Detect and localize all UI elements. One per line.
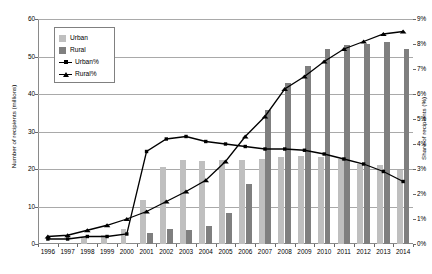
x-axis-tick-label: 2001 [139,249,153,255]
y-axis-right-tick-label: 4% [417,141,426,147]
y-axis-left-tick-label: 40 [28,91,35,97]
x-axis-tick-label: 2002 [159,249,173,255]
x-axis-tick-label: 2013 [376,249,390,255]
x-axis-tick-mark [413,244,414,247]
x-axis-tick-mark [117,244,118,247]
y-axis-right-tick-mark [413,94,416,95]
y-axis-right-tick-mark [413,69,416,70]
urban-swatch-icon [59,35,66,42]
y-axis-left-tick-label: 60 [28,16,35,22]
marker-urban-pct-2012 [362,162,365,165]
rural-line-marker-icon [59,71,72,78]
x-axis-tick-label: 2007 [258,249,272,255]
legend-label-rural: Rural [70,47,86,54]
chart-container: Number of recipients (millions) Share of… [0,0,432,274]
x-axis-tick-label: 2005 [218,249,232,255]
marker-urban-pct-2009 [303,149,306,152]
marker-urban-pct-2001 [145,150,148,153]
x-axis-tick-label: 1998 [80,249,94,255]
marker-urban-pct-2003 [184,135,187,138]
x-axis-tick-label: 2006 [238,249,252,255]
x-axis-tick-label: 1997 [60,249,74,255]
x-axis-tick-label: 2011 [337,249,351,255]
x-axis-tick-mark [97,244,98,247]
legend-label-urban-pct: Urban% [75,59,99,66]
x-axis-tick-label: 2014 [396,249,410,255]
x-axis-tick-mark [38,244,39,247]
y-axis-left-tick-label: 50 [28,53,35,59]
y-axis-right-tick-mark [413,219,416,220]
y-axis-right-tick-label: 8% [417,41,426,47]
marker-urban-pct-2000 [125,232,128,235]
x-axis-tick-label: 2008 [278,249,292,255]
marker-urban-pct-1999 [105,235,108,238]
marker-urban-pct-1997 [66,237,69,240]
y-axis-right-tick-mark [413,194,416,195]
marker-urban-pct-2007 [263,147,266,150]
chart-legend: Urban Rural Urban% Rural% [54,27,115,83]
y-axis-left-tick-label: 30 [28,128,35,134]
legend-item-urban: Urban [59,32,111,44]
x-axis-tick-label: 2009 [297,249,311,255]
x-axis-tick-label: 2000 [120,249,134,255]
y-axis-left-tick-label: 10 [28,203,35,209]
y-axis-right-tick-label: 9% [417,16,426,22]
marker-urban-pct-1998 [86,235,89,238]
marker-urban-pct-2014 [401,180,404,183]
x-axis-tick-label: 2010 [317,249,331,255]
legend-label-urban: Urban [70,35,88,42]
urban-line-marker-icon [59,59,72,66]
y-axis-left-tick-label: 20 [28,166,35,172]
marker-urban-pct-2002 [165,137,168,140]
legend-item-urban-pct: Urban% [59,56,111,68]
marker-urban-pct-2006 [244,145,247,148]
line-urban-pct [48,137,403,240]
y-axis-right-tick-label: 0% [417,241,426,247]
y-axis-right-tick-mark [413,19,416,20]
x-axis-tick-label: 2003 [179,249,193,255]
y-axis-right-tick-label: 6% [417,91,426,97]
x-axis-tick-mark [137,244,138,247]
x-axis-tick-mark [314,244,315,247]
marker-urban-pct-2011 [342,157,345,160]
x-axis-tick-mark [77,244,78,247]
x-axis-tick-mark [334,244,335,247]
x-axis-tick-mark [176,244,177,247]
y-axis-right-title: Share of recipients (%) [420,64,427,194]
x-axis-tick-label: 2004 [199,249,213,255]
rural-swatch-icon [59,47,66,54]
marker-urban-pct-2010 [322,152,325,155]
y-axis-right-tick-mark [413,144,416,145]
y-axis-right-tick-label: 5% [417,116,426,122]
marker-rural-pct-2007 [262,114,269,118]
x-axis-tick-mark [156,244,157,247]
y-axis-left-title: Number of recipients (millions) [10,62,17,192]
x-axis-tick-mark [354,244,355,247]
x-axis-tick-mark [255,244,256,247]
x-axis-tick-mark [275,244,276,247]
y-axis-right-tick-label: 3% [417,166,426,172]
legend-item-rural-pct: Rural% [59,68,111,80]
y-axis-right-tick-mark [413,119,416,120]
x-axis-tick-mark [374,244,375,247]
y-axis-right-tick-label: 7% [417,66,426,72]
y-axis-right-tick-mark [413,169,416,170]
x-axis-tick-mark [235,244,236,247]
y-axis-right-tick-label: 1% [417,216,426,222]
marker-urban-pct-2008 [283,147,286,150]
marker-urban-pct-2005 [224,142,227,145]
y-axis-right-tick-mark [413,44,416,45]
x-axis-tick-mark [295,244,296,247]
marker-rural-pct-2005 [222,159,229,163]
marker-urban-pct-2004 [204,140,207,143]
x-axis-tick-mark [216,244,217,247]
marker-urban-pct-2013 [382,170,385,173]
x-axis-tick-label: 1996 [41,249,55,255]
legend-item-rural: Rural [59,44,111,56]
x-axis-tick-mark [58,244,59,247]
y-axis-right-tick-label: 2% [417,191,426,197]
x-axis-tick-mark [196,244,197,247]
legend-label-rural-pct: Rural% [75,71,97,78]
x-axis-tick-label: 2012 [357,249,371,255]
x-axis-tick-label: 1999 [100,249,114,255]
